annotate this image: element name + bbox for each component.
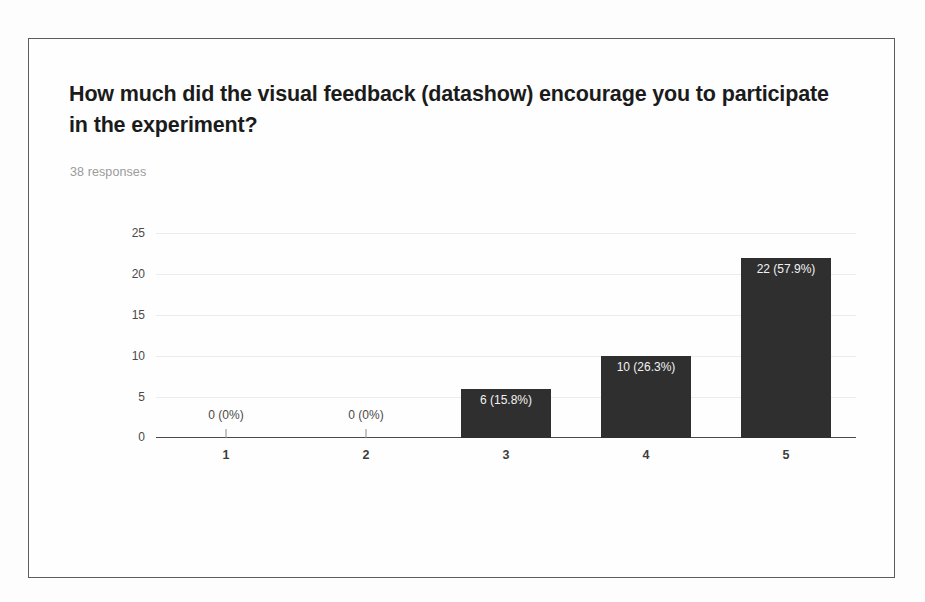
- y-tick-label-25: 25: [132, 226, 145, 240]
- survey-result-card: How much did the visual feedback (datash…: [28, 38, 895, 578]
- bar-4[interactable]: 10 (26.3%): [601, 356, 691, 438]
- x-tick-mark-2: [366, 429, 367, 438]
- bar-5[interactable]: 22 (57.9%): [741, 258, 831, 438]
- y-tick-label-10: 10: [132, 349, 145, 363]
- y-tick-label-5: 5: [138, 390, 145, 404]
- bar-chart: 25 20 15 10 5 0: [29, 39, 896, 579]
- bar-slot-1[interactable]: 0 (0%) 1: [156, 233, 296, 438]
- y-tick-label-0: 0: [138, 430, 145, 444]
- bar-value-label-4: 10 (26.3%): [601, 360, 691, 374]
- x-tick-label-3: 3: [503, 448, 510, 462]
- y-tick-label-20: 20: [132, 267, 145, 281]
- bar-slot-2[interactable]: 0 (0%) 2: [296, 233, 436, 438]
- bar-slot-5[interactable]: 22 (57.9%) 5: [716, 233, 856, 438]
- bar-value-label-5: 22 (57.9%): [741, 262, 831, 276]
- bar-slot-4[interactable]: 10 (26.3%) 4: [576, 233, 716, 438]
- bar-3[interactable]: 6 (15.8%): [461, 389, 551, 438]
- x-tick-label-5: 5: [783, 448, 790, 462]
- x-tick-label-4: 4: [643, 448, 650, 462]
- x-tick-label-2: 2: [363, 448, 370, 462]
- x-tick-label-1: 1: [223, 448, 230, 462]
- bar-value-label-1: 0 (0%): [208, 408, 243, 422]
- scanned-page: How much did the visual feedback (datash…: [0, 0, 925, 602]
- plot-area: 25 20 15 10 5 0: [156, 233, 856, 438]
- x-tick-mark-1: [226, 429, 227, 438]
- bar-value-label-2: 0 (0%): [348, 408, 383, 422]
- y-tick-label-15: 15: [132, 308, 145, 322]
- bar-value-label-3: 6 (15.8%): [461, 393, 551, 407]
- bar-slot-3[interactable]: 6 (15.8%) 3: [436, 233, 576, 438]
